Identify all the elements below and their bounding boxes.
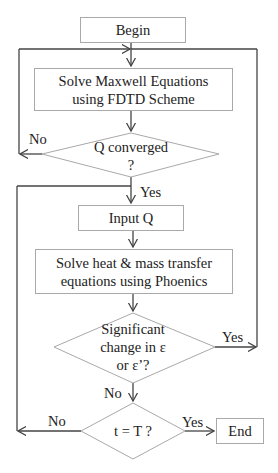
q-converged-line1: Q converged [71, 138, 191, 156]
input-q-box: Input Q [78, 205, 184, 231]
t-no-label: No [48, 413, 66, 429]
sig-yes-label: Yes [222, 329, 243, 345]
end-box: End [216, 418, 264, 444]
maxwell-label-line1: Solve Maxwell Equations [59, 72, 209, 90]
q-no-label: No [29, 131, 47, 147]
input-q-label: Input Q [109, 209, 154, 227]
significant-change-text: Significant change in ε or ε’? [73, 320, 193, 374]
begin-label: Begin [116, 21, 151, 39]
significant-line3: or ε’? [73, 356, 193, 374]
heat-label-line2: equations using Phoenics [61, 272, 208, 290]
t-yes-label: Yes [182, 414, 203, 430]
significant-line2: change in ε [73, 338, 193, 356]
maxwell-box: Solve Maxwell Equations using FDTD Schem… [34, 68, 233, 111]
t-equals-T-label: t = T ? [114, 423, 152, 439]
t-equals-T-text: t = T ? [93, 422, 173, 440]
significant-line1: Significant [73, 320, 193, 338]
sig-no-label: No [104, 385, 122, 401]
heat-label-line1: Solve heat & mass transfer [56, 254, 212, 272]
q-converged-text: Q converged ? [71, 138, 191, 174]
end-label: End [228, 422, 251, 440]
maxwell-label-line2: using FDTD Scheme [72, 90, 194, 108]
begin-box: Begin [80, 17, 186, 43]
q-yes-label: Yes [140, 184, 161, 200]
q-converged-line2: ? [71, 156, 191, 174]
heat-mass-box: Solve heat & mass transfer equations usi… [35, 249, 233, 294]
